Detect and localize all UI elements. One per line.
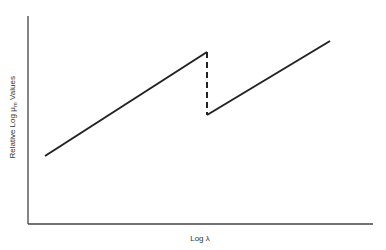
x-axis-label: Log λ (150, 234, 250, 243)
segment-1 (45, 52, 207, 156)
segment-2 (207, 41, 330, 115)
y-axis-label: Relative Log μm Values (8, 52, 19, 182)
chart (0, 0, 386, 250)
